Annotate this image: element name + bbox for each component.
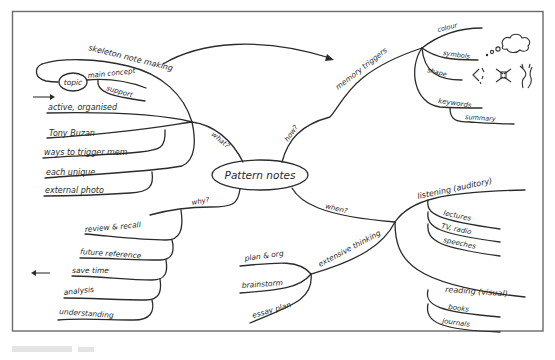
ways-trigger-label: ways to trigger mem xyxy=(44,148,128,157)
topic-label: topic xyxy=(64,78,83,87)
mind-map-canvas: Pattern notes what? skeleton note making… xyxy=(0,0,555,360)
mind-map-figure: Pattern notes what? skeleton note making… xyxy=(0,0,555,360)
tony-buzan-label: Tony Buzan xyxy=(49,129,95,138)
caption-fragment xyxy=(78,347,94,352)
external-photo-label: external photo xyxy=(45,186,104,195)
each-unique-label: each unique xyxy=(46,168,95,177)
center-node-label: Pattern notes xyxy=(225,169,296,181)
active-organised-label: active, organised xyxy=(48,103,118,112)
save-time-label: save time xyxy=(72,266,109,275)
caption-fragment xyxy=(12,346,72,352)
